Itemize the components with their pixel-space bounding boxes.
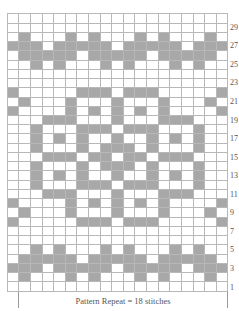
chart-cell: [19, 79, 31, 88]
chart-cell: [89, 162, 101, 171]
chart-cell: [101, 125, 113, 134]
chart-cell: [89, 116, 101, 125]
chart-cell: [217, 171, 229, 180]
chart-cell: [112, 42, 124, 51]
chart-cell: [147, 51, 159, 60]
chart-cell: [205, 208, 217, 217]
chart-cell: [31, 218, 43, 227]
chart-cell: [182, 190, 194, 199]
chart-cell: [217, 134, 229, 143]
chart-cell: [54, 14, 66, 23]
chart-cell: [112, 245, 124, 254]
chart-cell: [170, 245, 182, 254]
chart-cell: [135, 236, 147, 245]
chart-cell: [170, 88, 182, 97]
chart-cell: [43, 245, 55, 254]
chart-cell: [89, 273, 101, 282]
chart-cell: [101, 88, 113, 97]
chart-cell: [124, 98, 136, 107]
chart-cell: [66, 144, 78, 153]
chart-cell: [112, 264, 124, 273]
chart-cell: [89, 208, 101, 217]
chart-cell: [135, 61, 147, 70]
chart-cell: [194, 162, 206, 171]
chart-cell: [43, 264, 55, 273]
chart-cell: [194, 14, 206, 23]
chart-cell: [77, 33, 89, 42]
chart-cell: [66, 79, 78, 88]
chart-cell: [124, 70, 136, 79]
chart-cell: [77, 245, 89, 254]
chart-cell: [77, 125, 89, 134]
chart-cell: [66, 264, 78, 273]
chart-cell: [147, 236, 159, 245]
chart-cell: [205, 181, 217, 190]
chart-cell: [170, 24, 182, 33]
chart-cell: [89, 264, 101, 273]
chart-cell: [31, 227, 43, 236]
chart-cell: [159, 171, 171, 180]
chart-cell: [8, 116, 20, 125]
chart-cell: [147, 42, 159, 51]
chart-cell: [147, 98, 159, 107]
chart-cell: [135, 190, 147, 199]
chart-cell: [182, 144, 194, 153]
chart-cell: [112, 88, 124, 97]
chart-cell: [182, 79, 194, 88]
chart-cell: [89, 125, 101, 134]
chart-cell: [89, 282, 101, 291]
chart-cell: [101, 70, 113, 79]
chart-cell: [147, 208, 159, 217]
chart-cell: [182, 227, 194, 236]
chart-cell: [66, 171, 78, 180]
chart-cell: [66, 245, 78, 254]
chart-cell: [194, 245, 206, 254]
chart-cell: [19, 264, 31, 273]
chart-cell: [31, 171, 43, 180]
chart-cell: [101, 255, 113, 264]
chart-cell: [54, 116, 66, 125]
chart-cell: [77, 208, 89, 217]
chart-cell: [31, 273, 43, 282]
row-label: 15: [230, 153, 239, 162]
chart-cell: [182, 282, 194, 291]
chart-cell: [205, 162, 217, 171]
chart-cell: [170, 98, 182, 107]
chart-cell: [31, 245, 43, 254]
chart-cell: [77, 171, 89, 180]
chart-cell: [43, 134, 55, 143]
chart-cell: [89, 255, 101, 264]
chart-cell: [8, 70, 20, 79]
chart-cell: [124, 227, 136, 236]
chart-cell: [31, 70, 43, 79]
chart-cell: [135, 218, 147, 227]
chart-cell: [147, 273, 159, 282]
chart-cell: [101, 61, 113, 70]
chart-cell: [217, 162, 229, 171]
chart-cell: [101, 190, 113, 199]
chart-cell: [66, 208, 78, 217]
chart-cell: [101, 24, 113, 33]
chart-cell: [135, 273, 147, 282]
chart-cell: [19, 190, 31, 199]
chart-cell: [19, 208, 31, 217]
chart-cell: [124, 79, 136, 88]
chart-cell: [19, 51, 31, 60]
chart-cell: [194, 208, 206, 217]
chart-cell: [194, 218, 206, 227]
chart-cell: [31, 98, 43, 107]
chart-cell: [205, 70, 217, 79]
chart-cell: [135, 33, 147, 42]
chart-cell: [159, 236, 171, 245]
chart-cell: [31, 153, 43, 162]
chart-cell: [112, 255, 124, 264]
chart-cell: [182, 273, 194, 282]
chart-cell: [101, 79, 113, 88]
chart-cell: [217, 79, 229, 88]
chart-cell: [217, 61, 229, 70]
chart-cell: [8, 125, 20, 134]
chart-cell: [205, 153, 217, 162]
chart-cell: [147, 125, 159, 134]
chart-cell: [112, 236, 124, 245]
chart-cell: [101, 218, 113, 227]
